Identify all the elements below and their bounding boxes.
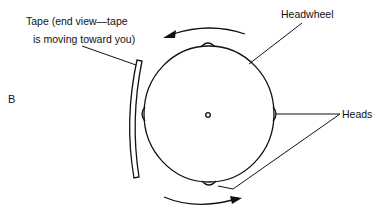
arrowhead-bottom — [230, 196, 242, 204]
panel-label: B — [8, 93, 15, 106]
hub-icon — [206, 113, 211, 118]
tape-strip — [130, 60, 142, 178]
tape-label-line1: Tape (end view—tape — [26, 15, 128, 28]
diagram-drawing — [0, 0, 386, 213]
tape-label-line2: is moving toward you) — [33, 33, 135, 46]
headwheel-circle — [144, 46, 274, 182]
rotation-arrow-top — [173, 28, 245, 34]
heads-label: Heads — [342, 108, 372, 121]
rotation-arrow-bottom — [164, 197, 232, 204]
arrowhead-top — [163, 30, 176, 38]
headwheel-diagram: B Tape (end view—tape is moving toward y… — [0, 0, 386, 213]
headwheel-label: Headwheel — [281, 8, 334, 21]
